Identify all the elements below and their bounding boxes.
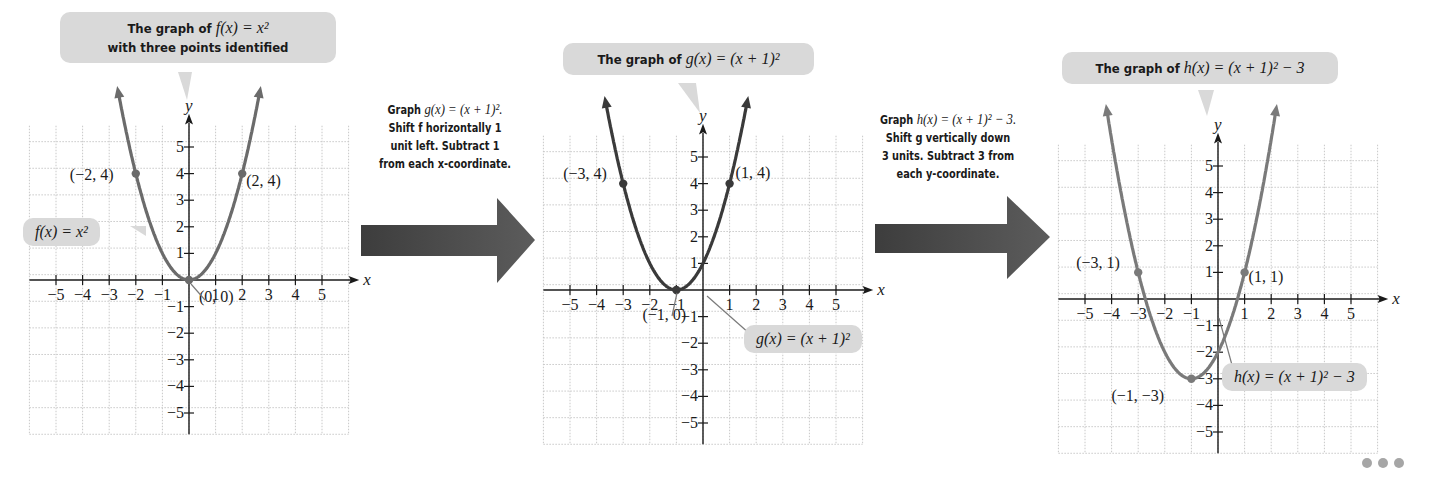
point-label: (2, 4) <box>246 172 281 190</box>
y-tick-label: −4 <box>1196 396 1213 413</box>
label-h-function: h(x) = (x + 1)² − 3 <box>1222 363 1367 391</box>
x-tick-label: −4 <box>588 296 605 313</box>
label-f-function: f(x) = x² <box>23 218 100 246</box>
x-tick-label: −4 <box>74 286 91 303</box>
y-axis-arrow-icon <box>185 114 193 125</box>
y-tick-label: −4 <box>167 377 184 394</box>
curve-arrow-icon <box>602 96 612 109</box>
y-tick-label: −5 <box>1196 423 1213 440</box>
y-tick-label: 4 <box>690 175 698 192</box>
callout-f-title: The graph of f(x) = x² with three points… <box>60 12 336 63</box>
y-tick-label: 2 <box>176 218 184 235</box>
x-tick-label: 1 <box>726 296 734 313</box>
y-axis-label: y <box>1212 115 1222 134</box>
x-tick-label: 5 <box>1347 305 1355 322</box>
point-marker <box>725 179 733 187</box>
y-tick-label: 2 <box>1205 237 1213 254</box>
y-tick-label: 5 <box>176 138 184 155</box>
curve-arrow-icon <box>254 86 264 99</box>
step-note-1: Graph g(x) = (x + 1)². Shift f horizonta… <box>356 100 535 173</box>
x-tick-label: −5 <box>1076 305 1093 322</box>
x-tick-label: 2 <box>1267 305 1275 322</box>
y-tick-label: 3 <box>1205 210 1213 227</box>
y-tick-label: −5 <box>681 414 698 431</box>
label-g-function: g(x) = (x + 1)² <box>744 325 862 353</box>
curve-arrow-icon <box>1270 104 1280 117</box>
point-marker <box>1240 268 1248 276</box>
point-label: (−3, 4) <box>563 165 607 183</box>
f-expression: f(x) = x² <box>216 19 269 36</box>
y-tick-label: −5 <box>167 404 184 421</box>
point-label: (−1, 0) <box>642 306 686 324</box>
x-axis-label: x <box>362 270 371 289</box>
y-tick-label: −2 <box>167 324 184 341</box>
x-axis-label: x <box>1391 289 1400 308</box>
x-tick-label: 3 <box>265 286 273 303</box>
y-tick-label: −2 <box>681 334 698 351</box>
y-tick-label: 3 <box>690 201 698 218</box>
y-tick-label: 2 <box>690 228 698 245</box>
x-tick-label: −2 <box>1156 305 1173 322</box>
y-tick-label: −3 <box>167 351 184 368</box>
x-tick-label: −3 <box>1130 305 1147 322</box>
y-tick-label: 3 <box>176 191 184 208</box>
y-axis-label: y <box>183 96 193 115</box>
point-marker <box>185 276 193 284</box>
x-tick-label: 4 <box>1320 305 1328 322</box>
y-tick-label: 4 <box>176 165 184 182</box>
h-expression: h(x) = (x + 1)² − 3 <box>1184 59 1305 76</box>
x-tick-label: −5 <box>561 296 578 313</box>
x-tick-label: −2 <box>127 286 144 303</box>
y-tick-label: 5 <box>1205 157 1213 174</box>
x-tick-label: 4 <box>291 286 299 303</box>
point-label: (−2, 4) <box>70 166 114 184</box>
x-tick-label: −4 <box>1103 305 1120 322</box>
x-tick-label: 5 <box>318 286 326 303</box>
y-tick-label: −2 <box>1196 343 1213 360</box>
curve-arrow-icon <box>741 96 751 109</box>
callout-h-title: The graph of h(x) = (x + 1)² − 3 <box>1062 52 1338 84</box>
x-tick-label: 3 <box>779 296 787 313</box>
step-arrow-2 <box>875 196 1050 279</box>
step-note-2: Graph h(x) = (x + 1)² − 3. Shift g verti… <box>855 110 1042 183</box>
point-marker <box>132 169 140 177</box>
point-label: (−3, 1) <box>1076 254 1120 272</box>
point-label: (1, 1) <box>1249 268 1284 286</box>
x-tick-label: 2 <box>238 286 246 303</box>
x-tick-label: −5 <box>47 286 64 303</box>
plane-h: xy−5−5−4−4−3−3−2−2−1−11122334455(−3, 1)(… <box>1058 104 1400 453</box>
point-marker <box>238 169 246 177</box>
point-label: (1, 4) <box>736 164 771 182</box>
x-tick-label: 3 <box>1294 305 1302 322</box>
callout-pointer <box>678 83 700 113</box>
x-tick-label: 2 <box>752 296 760 313</box>
callout-pointer <box>1198 90 1214 116</box>
y-tick-label: 1 <box>1205 263 1213 280</box>
curve-arrow-icon <box>1103 104 1113 117</box>
point-marker <box>1134 268 1142 276</box>
curve-arrow-icon <box>114 86 124 99</box>
x-axis-label: x <box>876 280 885 299</box>
callout-g-title: The graph of g(x) = (x + 1)² <box>563 43 814 75</box>
y-tick-label: 1 <box>690 254 698 271</box>
x-tick-label: −3 <box>101 286 118 303</box>
callout-pointer <box>130 226 146 236</box>
y-tick-label: 5 <box>690 148 698 165</box>
ellipsis-icon[interactable] <box>1362 458 1404 468</box>
x-tick-label: 1 <box>1241 305 1249 322</box>
point-label: (0, 0) <box>199 288 234 306</box>
point-marker <box>1187 375 1195 383</box>
plane-g: xy−5−5−4−4−3−3−2−2−1−11122334455(−3, 4)(… <box>543 96 885 444</box>
y-axis-arrow-icon <box>1214 133 1222 144</box>
step-arrow-1 <box>361 198 535 283</box>
y-tick-label: −1 <box>1196 317 1213 334</box>
y-tick-label: 4 <box>1205 184 1213 201</box>
y-axis-arrow-icon <box>699 124 707 135</box>
x-tick-label: 4 <box>805 296 813 313</box>
g-expression: g(x) = (x + 1)² <box>686 50 780 67</box>
plane-f: xy−5−5−4−4−3−3−2−2−1−11122334455(−2, 4)(… <box>29 86 371 434</box>
y-tick-label: 1 <box>176 244 184 261</box>
point-marker <box>619 179 627 187</box>
y-tick-label: −1 <box>167 298 184 315</box>
x-tick-label: −3 <box>615 296 632 313</box>
